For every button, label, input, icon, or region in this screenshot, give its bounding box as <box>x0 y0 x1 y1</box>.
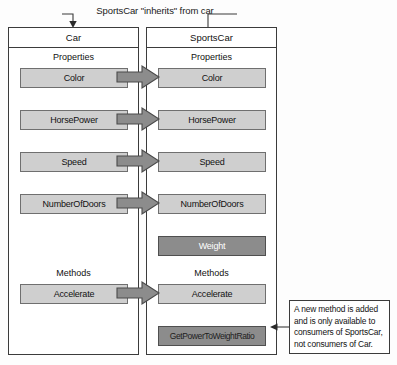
method-box-getpowertoweightratio-sportscar: GetPowerToWeightRatio <box>158 326 266 346</box>
property-box-speed-sportscar: Speed <box>158 152 266 172</box>
callout-line-1: A new method is added <box>294 304 386 316</box>
class-box-car: Car Properties Color HorsePower Speed Nu… <box>8 27 139 355</box>
property-box-speed-car: Speed <box>20 152 128 172</box>
property-box-horsepower-sportscar: HorsePower <box>158 110 266 130</box>
section-label-properties-sportscar: Properties <box>147 52 276 62</box>
callout-line-3: consumers of SportsCar, <box>294 327 386 339</box>
diagram-caption: SportsCar "inherits" from car <box>80 5 230 16</box>
class-title-sportscar: SportsCar <box>147 28 276 48</box>
property-box-horsepower-car: HorsePower <box>20 110 128 130</box>
class-box-sportscar: SportsCar Properties Color HorsePower Sp… <box>146 27 277 355</box>
inheritance-diagram: SportsCar "inherits" from car Car Proper… <box>0 0 397 365</box>
class-title-car: Car <box>9 28 138 48</box>
method-box-accelerate-sportscar: Accelerate <box>158 284 266 304</box>
section-label-properties-car: Properties <box>9 52 138 62</box>
section-label-methods-sportscar: Methods <box>147 268 276 278</box>
method-box-accelerate-car: Accelerate <box>20 284 128 304</box>
property-box-numberofdoors-sportscar: NumberOfDoors <box>158 194 266 214</box>
property-box-color-car: Color <box>20 68 128 88</box>
property-box-weight-sportscar: Weight <box>158 236 266 256</box>
property-box-color-sportscar: Color <box>158 68 266 88</box>
property-box-numberofdoors-car: NumberOfDoors <box>20 194 128 214</box>
callout-line-2: and is only available to <box>294 316 386 328</box>
callout-note: A new method is added and is only availa… <box>289 300 390 354</box>
section-label-methods-car: Methods <box>9 268 138 278</box>
callout-line-4: not consumers of Car. <box>294 339 386 351</box>
